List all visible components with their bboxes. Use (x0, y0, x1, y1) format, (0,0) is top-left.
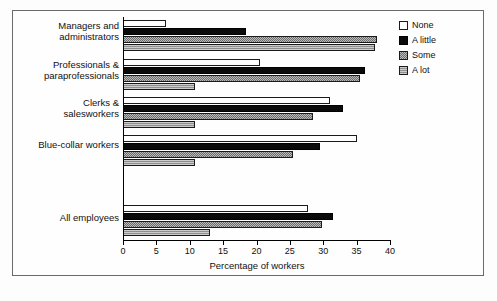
bar (123, 20, 166, 27)
category-label-line: Professionals & (0, 59, 119, 70)
bar (123, 83, 195, 90)
category-label-line: Managers and (0, 20, 119, 31)
x-tick (190, 241, 191, 245)
chart-screenshot: 0510152025303540 Managers andadministrat… (0, 0, 497, 301)
category-axis-line (123, 17, 124, 241)
x-tick-label: 0 (111, 246, 135, 256)
x-tick-label: 30 (311, 246, 335, 256)
x-axis-title: Percentage of workers (123, 260, 391, 271)
x-tick (390, 241, 391, 245)
category-label-line: salesworkers (0, 108, 119, 119)
bar (123, 28, 246, 35)
category-label-line: administrators (0, 31, 119, 42)
legend-label: A little (412, 35, 436, 45)
bar (123, 151, 293, 158)
category-labels: Managers andadministratorsProfessionals … (0, 17, 119, 241)
bar (123, 221, 322, 228)
bar (123, 213, 333, 220)
x-tick-label: 5 (144, 246, 168, 256)
bar (123, 97, 330, 104)
bar (123, 44, 375, 51)
legend: NoneA littleSomeA lot (399, 18, 475, 78)
category-label: All employees (0, 212, 119, 223)
category-label-line: Blue-collar workers (0, 139, 119, 150)
x-tick (156, 241, 157, 245)
x-tick-label: 10 (178, 246, 202, 256)
plot-area (123, 17, 390, 239)
bar (123, 205, 308, 212)
bar (123, 135, 357, 142)
x-tick (357, 241, 358, 245)
category-label: Blue-collar workers (0, 139, 119, 150)
legend-label: None (412, 20, 434, 30)
category-label: Managers andadministrators (0, 20, 119, 42)
bar (123, 159, 195, 166)
category-label: Professionals &paraprofessionals (0, 59, 119, 81)
bar (123, 113, 313, 120)
legend-label: A lot (412, 65, 430, 75)
checkered-square-icon (399, 51, 408, 60)
white-square-icon (399, 21, 408, 30)
bar (123, 229, 210, 236)
x-tick (123, 241, 124, 245)
x-tick-label: 20 (245, 246, 269, 256)
legend-item: Some (399, 48, 475, 62)
x-tick (223, 241, 224, 245)
x-tick-label: 40 (378, 246, 402, 256)
x-tick (323, 241, 324, 245)
gray-hatched-square-icon (399, 66, 408, 75)
category-label-line: All employees (0, 212, 119, 223)
category-label-line: Clerks & (0, 97, 119, 108)
x-tick (290, 241, 291, 245)
category-label-line: paraprofessionals (0, 70, 119, 81)
legend-item: None (399, 18, 475, 32)
x-tick (257, 241, 258, 245)
x-tick-label: 35 (345, 246, 369, 256)
category-label: Clerks &salesworkers (0, 97, 119, 119)
legend-item: A lot (399, 63, 475, 77)
x-tick-label: 15 (211, 246, 235, 256)
bar (123, 75, 360, 82)
bar (123, 121, 195, 128)
black-square-icon (399, 36, 408, 45)
bar (123, 36, 377, 43)
bar (123, 59, 260, 66)
legend-label: Some (412, 50, 436, 60)
x-tick-label: 25 (278, 246, 302, 256)
bar (123, 67, 365, 74)
bar (123, 105, 343, 112)
legend-item: A little (399, 33, 475, 47)
bar (123, 143, 320, 150)
